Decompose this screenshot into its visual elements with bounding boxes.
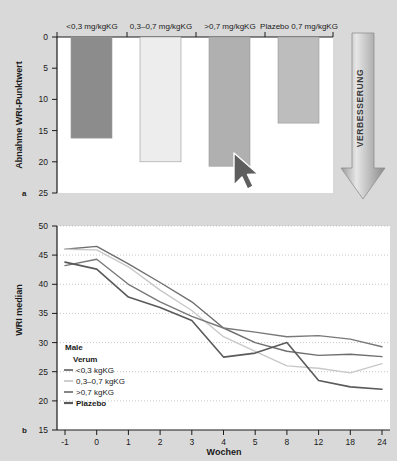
bar-ytick-label-25: 25 [39, 188, 49, 198]
line-xtick-label-2: 2 [158, 437, 163, 447]
bar-y-axis-title: Abnahme WRI-Punktwert [14, 61, 24, 169]
line-ytick-label-30: 30 [39, 338, 49, 348]
bar-category-label-1: 0,3–0,7 mg/kgKG [130, 22, 192, 31]
bar-ytick-label-20: 20 [39, 157, 49, 167]
line-xtick-label-0: 0 [94, 437, 99, 447]
bar-ytick-label-5: 5 [43, 63, 48, 73]
line-xtick-label-1: 1 [126, 437, 131, 447]
line-xtick-label--1: -1 [61, 437, 69, 447]
bar-1[interactable] [140, 37, 181, 162]
bar-ytick-label-10: 10 [39, 94, 49, 104]
line-ytick-label-20: 20 [39, 396, 49, 406]
bar-panel: 0 5 10 15 20 25 Abnahme WRI-Punktwert a … [14, 22, 338, 198]
bar-2[interactable] [209, 37, 250, 166]
legend-title: Male [65, 343, 83, 352]
bar-3[interactable] [278, 37, 319, 123]
line-panel: 5045403530252015 -10123458121824 WRI med… [14, 221, 390, 457]
line-xtick-label-18: 18 [346, 437, 356, 447]
line-xtick-label-3: 3 [189, 437, 194, 447]
figure-container: 0 5 10 15 20 25 Abnahme WRI-Punktwert a … [0, 0, 397, 461]
line-ytick-label-25: 25 [39, 367, 49, 377]
line-ytick-label-50: 50 [39, 221, 49, 231]
line-ytick-label-15: 15 [39, 425, 49, 435]
bar-0[interactable] [71, 37, 112, 138]
line-y-axis-title: WRI median [14, 284, 24, 336]
bar-ytick-label-15: 15 [39, 126, 49, 136]
bar-category-label-2: >0,7 mg/kgKG [204, 22, 255, 31]
line-ytick-label-35: 35 [39, 308, 49, 318]
legend-label-3: Plazebo [76, 399, 106, 408]
line-ytick-label-45: 45 [39, 250, 49, 260]
line-xtick-label-5: 5 [253, 437, 258, 447]
line-xtick-label-4: 4 [221, 437, 226, 447]
legend-subtitle: Verum [73, 355, 97, 364]
line-xtick-label-8: 8 [285, 437, 290, 447]
arrow-label: VERBESSERUNG [355, 69, 365, 148]
bar-ytick-label-0: 0 [43, 32, 48, 42]
legend-label-1: 0,3–0,7 kgKG [76, 377, 125, 386]
line-xtick-label-24: 24 [377, 437, 387, 447]
legend-label-0: <0,3 kgKG [76, 366, 114, 375]
line-ytick-label-40: 40 [39, 279, 49, 289]
legend-label-2: >0,7 kgKG [76, 388, 114, 397]
line-xtick-label-12: 12 [314, 437, 324, 447]
bar-category-label-3: Plazebo 0,7 mg/kgKG [260, 22, 338, 31]
bar-category-label-0: <0,3 mg/kgKG [66, 22, 117, 31]
panel-letter-a: a [22, 189, 27, 198]
line-x-axis-title: Wochen [207, 447, 242, 457]
figure-svg: 0 5 10 15 20 25 Abnahme WRI-Punktwert a … [0, 0, 397, 461]
panel-letter-b: b [22, 426, 27, 435]
